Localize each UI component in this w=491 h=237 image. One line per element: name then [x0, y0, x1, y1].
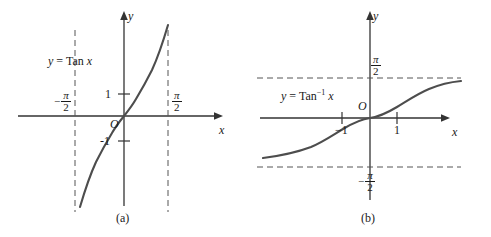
panel-b-eq-var: x — [328, 89, 333, 103]
panel-a-eq-var: x — [87, 54, 92, 68]
panel-b-x-axis-label: x — [452, 126, 457, 138]
panel-a-plot — [0, 0, 245, 237]
panel-a-xtick-neg-num: π — [61, 90, 71, 101]
panel-b-origin-label: O — [358, 100, 367, 112]
panel-b-xtick-neg1: −1 — [335, 124, 348, 136]
panel-b-ytick-pi-over-2: π 2 — [371, 54, 381, 77]
panel-b-equation: y = Tan−1 x — [281, 89, 334, 102]
panel-b-x-axis — [260, 114, 450, 122]
panel-a-caption: (a) — [116, 212, 129, 224]
panel-a-equation: y = Tan x — [48, 55, 92, 67]
panel-a-y-axis — [120, 11, 128, 206]
panel-b-eq-exponent: −1 — [317, 88, 326, 97]
panel-a-xtick-neg-pi-over-2: − π 2 — [54, 90, 71, 113]
panel-a-xtick-pos-num: π — [172, 90, 182, 101]
panel-b-eq-func: Tan — [299, 89, 317, 103]
panel-b-ytick-pos-den: 2 — [371, 65, 381, 77]
panel-a-xtick-neg-den: 2 — [61, 101, 71, 113]
panel-b-y-axis-label: y — [373, 10, 378, 22]
panel-b-eq-equals: = — [289, 89, 296, 103]
panel-a-xtick-pi-over-2: π 2 — [172, 90, 182, 113]
panel-b-xtick-1: 1 — [394, 124, 400, 136]
panel-a-eq-func: Tan — [66, 54, 84, 68]
panel-b-ytick-neg-pi-over-2: − π 2 — [358, 170, 375, 193]
panel-a-ytick-1: 1 — [105, 88, 111, 100]
panel-a-xtick-neg-sign: − — [54, 96, 61, 107]
panel-a-ytick-neg1: -1 — [100, 135, 110, 147]
panel-a-x-axis-label: x — [219, 124, 224, 136]
panel-a-y-axis-label: y — [128, 10, 133, 22]
panel-a-origin-label: O — [110, 118, 119, 130]
panel-b-ytick-neg-den: 2 — [365, 181, 375, 193]
panel-b-eq-y: y — [281, 89, 286, 103]
panel-a-xtick-pos-den: 2 — [172, 101, 182, 113]
panel-a-eq-y: y — [48, 54, 53, 68]
panel-a-eq-equals: = — [56, 54, 63, 68]
panel-b-ytick-neg-sign: − — [358, 176, 365, 187]
panel-b-caption: (b) — [361, 212, 375, 224]
panel-b-ytick-pos-num: π — [371, 54, 381, 65]
panel-a-x-axis — [18, 112, 223, 120]
panel-b-plot — [245, 0, 491, 237]
panel-b-ytick-neg-num: π — [365, 170, 375, 181]
figure-container: y = Tan x 1 -1 O x y − π 2 π 2 (a) — [0, 0, 491, 237]
